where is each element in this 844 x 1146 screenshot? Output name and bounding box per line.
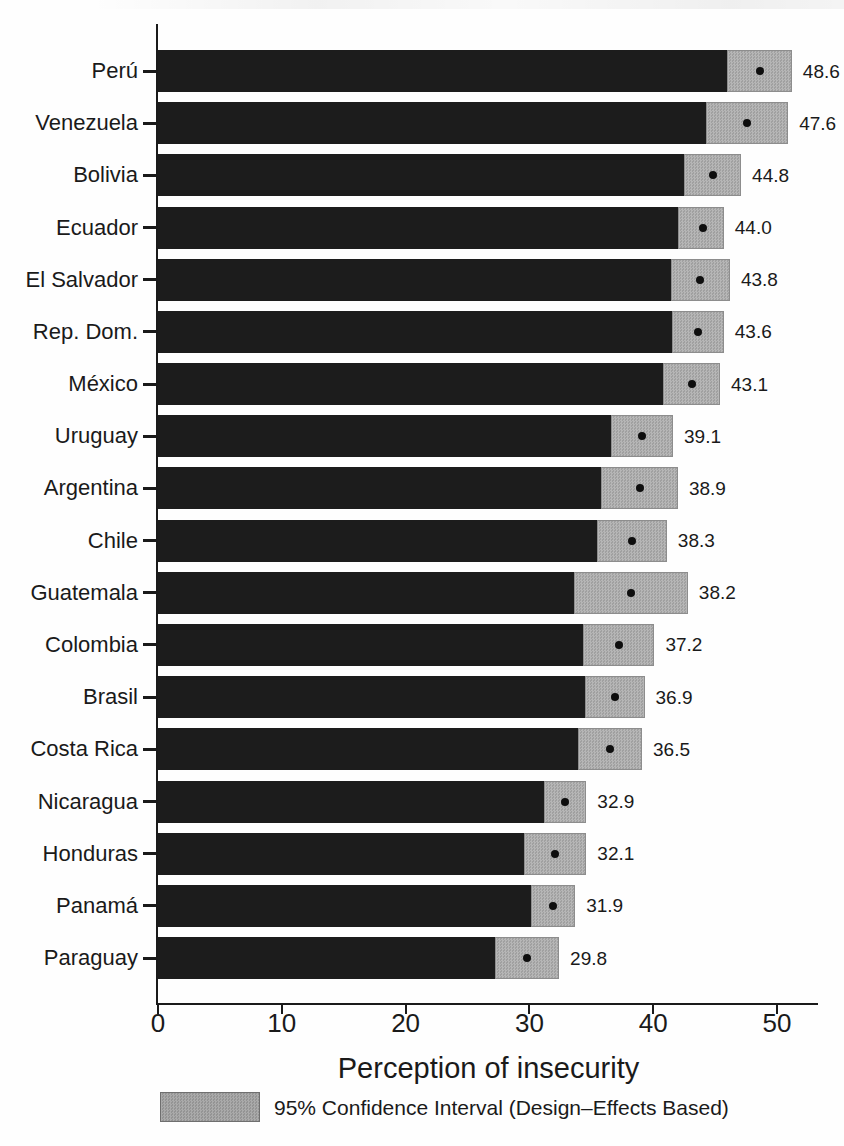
legend-ci-swatch (160, 1092, 260, 1122)
bar (158, 363, 663, 405)
value-label: 37.2 (665, 635, 702, 654)
point-estimate-dot (699, 224, 707, 232)
country-label: Chile (0, 530, 138, 552)
value-label: 38.3 (678, 531, 715, 550)
x-tick-label: 10 (267, 1010, 296, 1036)
category-tick (143, 591, 156, 594)
category-tick (143, 696, 156, 699)
value-label: 36.9 (656, 688, 693, 707)
value-label: 32.1 (597, 844, 634, 863)
value-label: 38.2 (699, 583, 736, 602)
bar (158, 259, 671, 301)
point-estimate-dot (523, 954, 531, 962)
country-label: Guatemala (0, 582, 138, 604)
bar (158, 781, 544, 823)
x-tick-label: 30 (515, 1010, 544, 1036)
value-label: 43.8 (741, 270, 778, 289)
bar (158, 885, 531, 927)
legend-label: 95% Confidence Interval (Design–Effects … (274, 1092, 729, 1122)
country-label: Perú (0, 60, 138, 82)
category-tick (143, 957, 156, 960)
country-label: Honduras (0, 843, 138, 865)
country-label: Ecuador (0, 217, 138, 239)
bar (158, 311, 672, 353)
country-label: Bolivia (0, 164, 138, 186)
category-tick (143, 226, 156, 229)
x-tick-label: 40 (639, 1010, 668, 1036)
point-estimate-dot (696, 276, 704, 284)
value-label: 43.1 (731, 375, 768, 394)
bar (158, 467, 601, 509)
value-label: 44.0 (735, 218, 772, 237)
point-estimate-dot (615, 641, 623, 649)
category-tick (143, 70, 156, 73)
country-label: Paraguay (0, 947, 138, 969)
category-tick (143, 174, 156, 177)
category-tick (143, 800, 156, 803)
category-tick (143, 435, 156, 438)
category-tick (143, 383, 156, 386)
value-label: 36.5 (653, 740, 690, 759)
category-tick (143, 539, 156, 542)
country-label: Panamá (0, 895, 138, 917)
category-tick (143, 122, 156, 125)
country-label: Uruguay (0, 425, 138, 447)
country-label: Colombia (0, 634, 138, 656)
category-tick (143, 330, 156, 333)
value-label: 43.6 (735, 322, 772, 341)
country-label: El Salvador (0, 269, 138, 291)
bar (158, 50, 727, 92)
point-estimate-dot (611, 693, 619, 701)
scan-artifact (90, 0, 844, 9)
bar (158, 728, 578, 770)
bar (158, 624, 583, 666)
category-tick (143, 852, 156, 855)
point-estimate-dot (627, 589, 635, 597)
value-label: 48.6 (803, 62, 840, 81)
category-tick (143, 748, 156, 751)
value-label: 39.1 (684, 427, 721, 446)
value-label: 32.9 (597, 792, 634, 811)
value-label: 47.6 (799, 114, 836, 133)
point-estimate-dot (694, 328, 702, 336)
country-label: Nicaragua (0, 791, 138, 813)
value-label: 38.9 (689, 479, 726, 498)
country-label: Venezuela (0, 112, 138, 134)
x-axis-title: Perception of insecurity (158, 1053, 819, 1083)
value-label: 31.9 (586, 896, 623, 915)
country-label: Rep. Dom. (0, 321, 138, 343)
bar (158, 415, 611, 457)
bar (158, 833, 524, 875)
category-tick (143, 643, 156, 646)
x-tick-label: 20 (391, 1010, 420, 1036)
category-tick (143, 278, 156, 281)
bar (158, 154, 684, 196)
bar (158, 676, 585, 718)
country-label: México (0, 373, 138, 395)
country-label: Brasil (0, 686, 138, 708)
bar (158, 520, 597, 562)
country-label: Costa Rica (0, 738, 138, 760)
point-estimate-dot (628, 537, 636, 545)
category-tick (143, 487, 156, 490)
point-estimate-dot (549, 902, 557, 910)
x-tick-label: 0 (151, 1010, 165, 1036)
point-estimate-dot (709, 171, 717, 179)
point-estimate-dot (756, 67, 764, 75)
value-label: 44.8 (752, 166, 789, 185)
x-axis-line (156, 1003, 818, 1005)
x-tick-label: 50 (763, 1010, 792, 1036)
bar (158, 937, 495, 979)
bar (158, 102, 706, 144)
value-label: 29.8 (570, 949, 607, 968)
country-label: Argentina (0, 477, 138, 499)
point-estimate-dot (561, 798, 569, 806)
category-tick (143, 904, 156, 907)
bar (158, 207, 678, 249)
bar (158, 572, 574, 614)
point-estimate-dot (688, 380, 696, 388)
figure-perception-of-insecurity: Perú48.6Venezuela47.6Bolivia44.8Ecuador4… (0, 0, 844, 1146)
